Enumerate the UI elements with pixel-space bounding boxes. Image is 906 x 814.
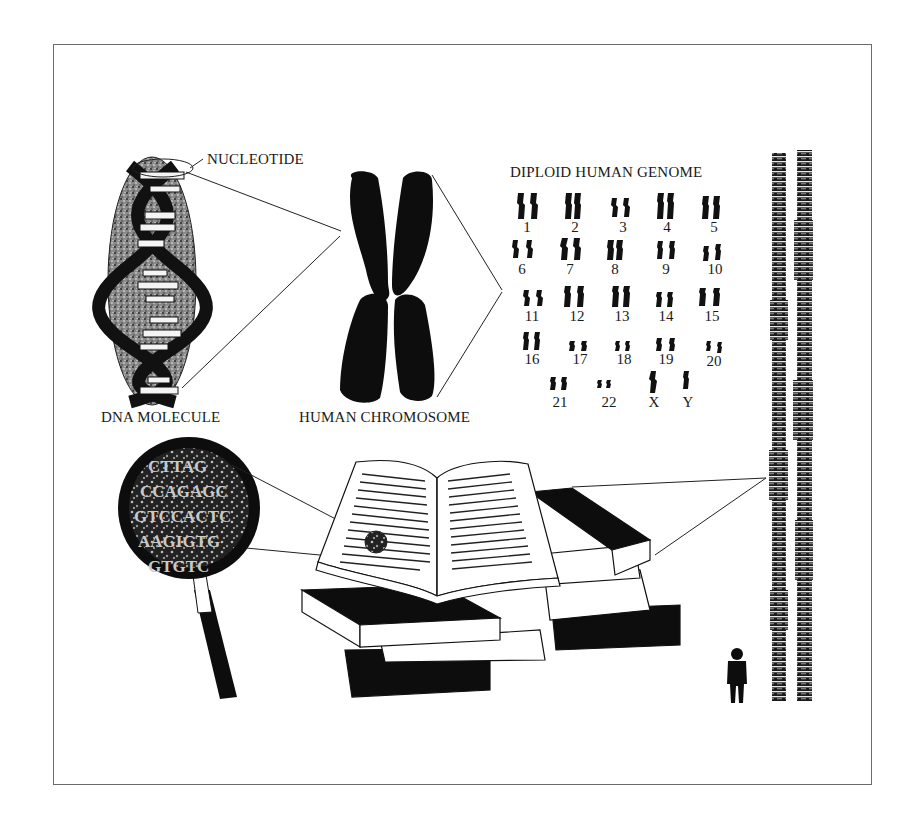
karyotype-pair-20 — [706, 341, 722, 353]
book-tower-left-icon — [769, 153, 788, 701]
karyotype-label: 11 — [517, 308, 547, 325]
dna-molecule-label: DNA MOLECULE — [101, 409, 220, 426]
karyotype-pair-11 — [523, 290, 543, 306]
karyotype-pair-13 — [612, 286, 630, 307]
karyotype-pair-14 — [656, 292, 673, 307]
karyotype-label: 21 — [545, 394, 575, 411]
karyotype-label: 2 — [560, 219, 590, 236]
book-highlight-spot — [365, 531, 387, 553]
karyotype-pair-19 — [656, 338, 675, 351]
karyotype-pair-17 — [569, 341, 587, 351]
karyotype-label: 18 — [609, 351, 639, 368]
karyotype-pair-5 — [702, 196, 720, 219]
karyotype-pair-8 — [607, 240, 623, 260]
karyotype-label: 6 — [507, 261, 537, 278]
karyotype-label: 14 — [651, 308, 681, 325]
karyotype-x — [649, 371, 657, 393]
karyotype-pair-2 — [565, 193, 581, 219]
diploid-genome-title: DIPLOID HUMAN GENOME — [510, 164, 702, 181]
svg-text:AAGIGTG: AAGIGTG — [138, 532, 220, 551]
karyotype-label: 13 — [607, 308, 637, 325]
karyotype-label: 19 — [651, 351, 681, 368]
dna-molecule-icon — [99, 157, 341, 405]
genome-illustration: CTTAG CCAGAGC GTCCACTC AAGIGTG GTGTC — [0, 0, 906, 814]
person-silhouette-icon — [727, 648, 747, 703]
nucleotide-label: NUCLEOTIDE — [207, 151, 304, 168]
karyotype-label: X — [639, 394, 669, 411]
karyotype-label: 17 — [565, 351, 595, 368]
karyotype-label: 12 — [562, 308, 592, 325]
karyotype-label: 1 — [512, 219, 542, 236]
karyotype-label: 10 — [700, 261, 730, 278]
svg-text:CTTAG: CTTAG — [148, 457, 207, 476]
karyotype-label: 4 — [652, 219, 682, 236]
karyotype-pair-1 — [517, 193, 538, 219]
karyotype-pair-12 — [564, 286, 584, 307]
karyotype-y — [683, 371, 689, 389]
karyotype-pair-3 — [611, 198, 630, 217]
karyotype-pair-9 — [657, 241, 675, 259]
karyotype-pair-22 — [597, 380, 611, 388]
karyotype-label: 9 — [651, 261, 681, 278]
book-stack-icon — [302, 461, 680, 697]
svg-text:GTCCACTC: GTCCACTC — [134, 507, 231, 526]
chromosome-icon — [340, 171, 434, 402]
karyotype-pair-7 — [560, 238, 581, 260]
karyotype-label: 20 — [699, 353, 729, 370]
karyotype-pair-6 — [512, 240, 533, 258]
book-tower-right-icon — [793, 150, 813, 701]
karyotype-label: 15 — [697, 308, 727, 325]
karyotype-label: 8 — [600, 261, 630, 278]
karyotype-pair-21 — [550, 377, 567, 390]
karyotype-label: 16 — [517, 351, 547, 368]
karyotype-label: 5 — [699, 219, 729, 236]
karyotype-label: 7 — [555, 261, 585, 278]
karyotype-pair-10 — [703, 244, 721, 261]
karyotype-label: 3 — [608, 219, 638, 236]
karyotype-label: 22 — [594, 394, 624, 411]
karyotype-label: Y — [673, 394, 703, 411]
karyotype-pair-16 — [523, 332, 540, 350]
karyotype-pair-18 — [615, 341, 630, 351]
karyotype-pair-15 — [699, 288, 720, 306]
svg-text:CCAGAGC: CCAGAGC — [140, 482, 228, 501]
svg-text:GTGTC: GTGTC — [148, 557, 209, 576]
human-chromosome-label: HUMAN CHROMOSOME — [299, 409, 470, 426]
karyotype-pair-4 — [657, 193, 674, 219]
